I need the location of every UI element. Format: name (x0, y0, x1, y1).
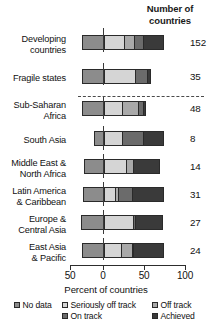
bar-segment-seriously-off-track (104, 36, 124, 49)
bar-segment-no-data (83, 244, 104, 257)
stacked-bar (82, 69, 151, 84)
category-label-line: East Asia (0, 242, 66, 253)
group-separator (78, 96, 204, 97)
bar-segment-achieved (143, 102, 146, 115)
category-label-line: Latin America (0, 186, 66, 197)
stacked-bar (83, 187, 163, 202)
bar-segment-seriously-off-track (104, 102, 122, 115)
category-label-line: Central Asia (0, 225, 66, 236)
category-label-line: Fragile states (0, 73, 66, 84)
stacked-bar (82, 35, 164, 50)
stacked-bar (81, 215, 163, 230)
bar-segment-seriously-off-track (104, 160, 126, 173)
axis-tick-label: 50 (129, 270, 159, 281)
bar-segment-no-data (83, 102, 104, 115)
bar-segment-no-data (82, 216, 104, 229)
category-label-line: Europe & (0, 214, 66, 225)
zero-line-tick (103, 210, 104, 234)
legend-swatch-icon (152, 313, 158, 319)
zero-line-tick (103, 126, 104, 150)
category-label-line: North Africa (0, 169, 66, 180)
category-label-line: Developing (0, 34, 66, 45)
country-count: 24 (190, 245, 212, 256)
legend-swatch-icon (62, 302, 68, 308)
bar-segment-achieved (132, 188, 164, 201)
bar-segment-on-track (135, 70, 146, 83)
bar-segment-off-track (122, 102, 138, 115)
stacked-bar (84, 159, 160, 174)
country-count: 8 (190, 133, 212, 144)
zero-line-tick (103, 97, 104, 119)
zero-line-tick (103, 154, 104, 178)
bar-segment-seriously-off-track (104, 70, 135, 83)
legend-label: No data (23, 300, 52, 310)
zero-line-tick (103, 238, 104, 260)
category-label-line: Middle East & (0, 158, 66, 169)
category-label-line: countries (0, 45, 66, 56)
bar-segment-no-data (83, 36, 104, 49)
category-label: South Asia (0, 135, 66, 146)
legend-item-no-data: No data (14, 300, 52, 310)
legend-label: On track (71, 311, 102, 321)
bar-segment-no-data (83, 70, 104, 83)
category-label: Developingcountries (0, 34, 66, 55)
country-count: 27 (190, 217, 212, 228)
axis-title: Percent of countries (0, 284, 212, 295)
count-column-header: Number of countries (132, 3, 208, 26)
bar-segment-achieved (135, 216, 163, 229)
x-axis: 50050100 Percent of countries (0, 258, 212, 292)
zero-line-tick (103, 28, 104, 52)
country-count: 152 (190, 37, 212, 48)
bar-segment-on-track (122, 132, 143, 145)
bar-segment-no-data (85, 160, 104, 173)
bar-segment-no-data (84, 188, 104, 201)
bar-segment-achieved (133, 244, 163, 257)
country-count: 31 (190, 189, 212, 200)
legend-swatch-icon (62, 313, 68, 319)
category-label: Europe &Central Asia (0, 214, 66, 235)
category-label-line: South Asia (0, 135, 66, 146)
stacked-bar-chart: Number of countries Developingcountries1… (0, 0, 212, 324)
bar-segment-seriously-off-track (104, 132, 122, 145)
category-label: Sub-SaharanAfrica (0, 100, 66, 121)
bar-segment-off-track (121, 244, 132, 257)
axis-tick-label: 50 (55, 270, 85, 281)
bar-segment-achieved (147, 70, 151, 83)
count-header-line2: countries (149, 15, 191, 26)
bar-segment-achieved (143, 36, 164, 49)
country-count: 48 (190, 103, 212, 114)
bar-segment-seriously-off-track (104, 244, 121, 257)
category-label-line: & Caribbean (0, 197, 66, 208)
axis-tick-label: 0 (88, 270, 118, 281)
category-label-line: Africa (0, 111, 66, 122)
bar-segment-on-track (134, 36, 142, 49)
category-label: Middle East &North Africa (0, 158, 66, 179)
zero-line-tick (103, 63, 104, 85)
legend-item-off-track: Off track (152, 300, 191, 310)
legend-label: Off track (161, 300, 192, 310)
legend-item-seriously-off-track: Seriously off track (62, 300, 136, 310)
category-label-line: Sub-Saharan (0, 100, 66, 111)
count-header-line1: Number of (147, 3, 194, 14)
bar-segment-on-track (118, 188, 132, 201)
category-label: Latin America& Caribbean (0, 186, 66, 207)
bar-segment-seriously-off-track (104, 188, 115, 201)
chart-legend: No dataSeriously off trackOff trackOn tr… (0, 298, 212, 324)
legend-swatch-icon (14, 302, 20, 308)
stacked-bar (82, 243, 164, 258)
bar-segment-seriously-off-track (104, 216, 133, 229)
zero-line-tick (103, 182, 104, 206)
bar-segment-off-track (124, 36, 135, 49)
legend-item-on-track: On track (62, 311, 102, 321)
legend-label: Achieved (161, 311, 195, 321)
legend-swatch-icon (152, 302, 158, 308)
category-label: Fragile states (0, 73, 66, 84)
country-count: 14 (190, 161, 212, 172)
stacked-bar (94, 131, 164, 146)
plot-area: Developingcountries152Fragile states35Su… (0, 30, 212, 258)
axis-line (70, 265, 185, 266)
axis-tick-label: 100 (170, 270, 200, 281)
bar-segment-achieved (133, 160, 161, 173)
country-count: 35 (190, 71, 212, 82)
legend-item-achieved: Achieved (152, 311, 195, 321)
